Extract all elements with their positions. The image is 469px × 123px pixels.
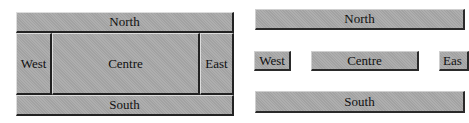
south-button[interactable]: South xyxy=(255,91,465,113)
north-region[interactable]: North xyxy=(16,12,234,33)
east-button[interactable]: Eas xyxy=(439,51,469,71)
centre-region[interactable]: Centre xyxy=(52,33,200,95)
west-region[interactable]: West xyxy=(16,33,52,95)
south-region[interactable]: South xyxy=(16,95,234,116)
west-button[interactable]: West xyxy=(254,51,291,71)
centre-button[interactable]: Centre xyxy=(311,51,419,71)
east-region[interactable]: East xyxy=(200,33,234,95)
north-button[interactable]: North xyxy=(255,9,465,30)
